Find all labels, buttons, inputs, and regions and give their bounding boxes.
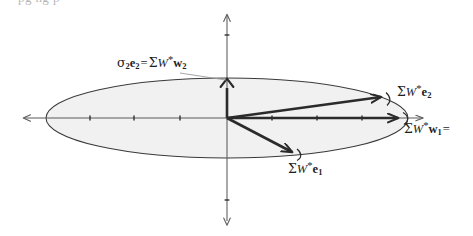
figure-canvas: pg ng p <box>0 0 473 236</box>
sigma-sum-symbol: Σ <box>288 161 297 176</box>
label-sw-e2: ΣW*e2 <box>397 84 431 99</box>
e-subscript: 2 <box>427 90 431 100</box>
label-sw-e1: ΣW*e1 <box>288 161 322 176</box>
e-subscript: 2 <box>135 61 139 71</box>
w-matrix-symbol: W <box>406 85 416 99</box>
w-matrix-symbol: W <box>158 56 168 70</box>
sigma-sum-symbol: Σ <box>397 84 406 99</box>
w-vector-symbol: w <box>173 56 182 70</box>
w-matrix-symbol: W <box>413 122 423 136</box>
w-subscript: 2 <box>182 61 186 71</box>
sigma-sum-symbol: Σ <box>404 121 413 136</box>
trailing-equals-sign: = <box>442 122 451 136</box>
label-sigma2-e2-equals-sw-w2: σ2e2=ΣW*w2 <box>117 55 187 70</box>
vector-diagram-svg <box>0 0 473 236</box>
w-matrix-symbol: W <box>297 162 307 176</box>
w-vector-symbol: w <box>429 122 438 136</box>
label-sw-w1: ΣW*w1= <box>404 121 451 136</box>
e-subscript: 1 <box>318 167 322 177</box>
equals-sign: = <box>140 56 149 70</box>
sigma-sum-symbol: Σ <box>149 55 158 70</box>
sigma-2-symbol: σ <box>117 55 126 70</box>
